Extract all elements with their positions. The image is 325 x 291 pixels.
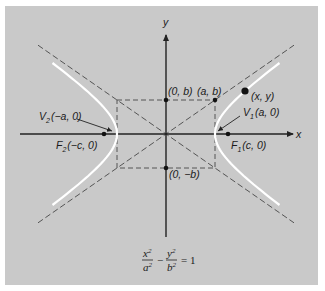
label-0-b: (0, b)	[168, 85, 193, 97]
point-x-y	[241, 87, 248, 94]
label-v2: V2(−a, 0)	[39, 110, 82, 124]
svg-text:b2: b2	[167, 261, 177, 273]
label-f1: F1(c, 0)	[231, 139, 266, 153]
label-v1: V1(a, 0)	[243, 106, 279, 120]
svg-text:a2: a2	[143, 261, 153, 273]
focus-f2-point	[102, 132, 107, 137]
point-0-b	[164, 98, 169, 103]
hyperbola-diagram: y x (0, b) (a, b) (0, −b) (x, y) V1(a, 0…	[0, 0, 325, 291]
label-x-y: (x, y)	[251, 90, 274, 102]
svg-text:= 1: = 1	[181, 254, 195, 266]
label-a-b: (a, b)	[197, 85, 222, 97]
hyperbola-equation: x2 a2 − y2 b2 = 1	[142, 247, 195, 273]
x-axis-label: x	[295, 128, 302, 140]
svg-text:x2: x2	[142, 247, 152, 259]
svg-text:−: −	[157, 254, 163, 266]
v1-leader-arrow	[218, 116, 240, 131]
point-0-minus-b	[164, 166, 169, 171]
point-a-b	[213, 98, 218, 103]
v2-leader-arrow	[77, 119, 112, 131]
svg-text:y2: y2	[166, 247, 176, 259]
focus-f1-point	[226, 132, 231, 137]
label-0-minus-b: (0, −b)	[169, 168, 200, 180]
y-axis-label: y	[162, 16, 169, 28]
label-f2: F2(−c, 0)	[56, 139, 97, 153]
